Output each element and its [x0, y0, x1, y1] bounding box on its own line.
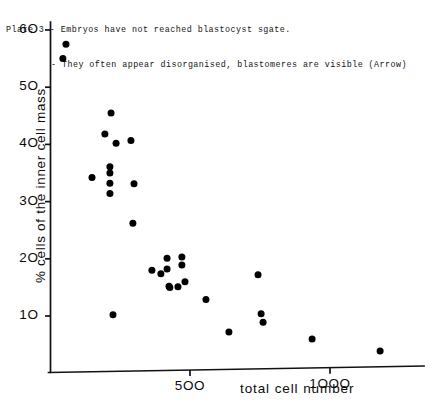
- data-point: [178, 262, 185, 269]
- data-point: [202, 296, 209, 303]
- data-point: [106, 180, 113, 187]
- data-point: [148, 267, 155, 274]
- data-point: [113, 140, 120, 147]
- data-point: [101, 131, 108, 138]
- x-tick-label-1000: 1OOO: [300, 376, 360, 391]
- data-point: [309, 335, 316, 342]
- plot-canvas: [0, 0, 430, 406]
- data-point: [178, 254, 185, 261]
- scatter-plot: % cells of the inner cell mass total cel…: [0, 0, 430, 406]
- data-point: [255, 271, 262, 278]
- data-point: [164, 255, 171, 262]
- data-point: [181, 278, 188, 285]
- data-point: [166, 284, 173, 291]
- data-point: [164, 266, 171, 273]
- data-point: [260, 319, 267, 326]
- y-tick-label-40: 4O: [5, 135, 39, 150]
- y-tick-label-10: 1O: [5, 307, 39, 322]
- data-point: [110, 311, 117, 318]
- y-tick-label-50: 5O: [5, 78, 39, 93]
- data-point: [129, 220, 136, 227]
- y-axis-title: % cells of the inner cell mass: [33, 61, 48, 311]
- data-point: [157, 270, 164, 277]
- data-point: [131, 180, 138, 187]
- data-point: [174, 283, 181, 290]
- data-point: [106, 190, 113, 197]
- data-point: [106, 163, 113, 170]
- data-point: [89, 174, 96, 181]
- data-point: [108, 109, 115, 116]
- data-point: [377, 347, 384, 354]
- y-tick-label-60: 6O: [5, 21, 39, 36]
- data-point: [59, 55, 66, 62]
- y-tick-label-20: 2O: [5, 250, 39, 265]
- data-point: [225, 329, 232, 336]
- data-point: [106, 170, 113, 177]
- data-point-group: [59, 41, 383, 355]
- data-point: [258, 310, 265, 317]
- data-point: [62, 41, 69, 48]
- x-tick-label-500: 5OO: [160, 378, 220, 393]
- data-point: [127, 137, 134, 144]
- y-tick-label-30: 3O: [5, 193, 39, 208]
